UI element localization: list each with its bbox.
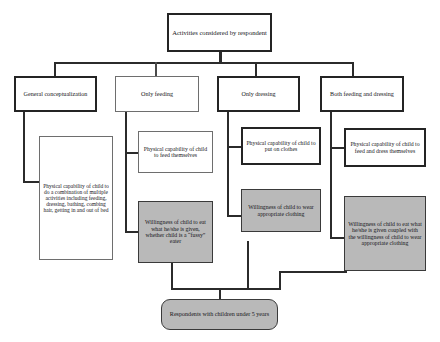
node-capability-general[interactable]: Physical capability of child to do a com… [39, 136, 113, 260]
node-both-feeding-dressing[interactable]: Both feeding and dressing [320, 76, 404, 112]
connector-dressing-to-capability [227, 146, 242, 148]
connector-general-spine [23, 110, 25, 182]
node-only-dressing[interactable]: Only dressing [217, 76, 300, 112]
node-capability-dressing[interactable]: Physical capability of child to put on c… [241, 127, 321, 165]
connector-drop-dressing [255, 62, 257, 77]
node-capability-both[interactable]: Physical capability of child to feed and… [344, 128, 426, 167]
node-respondents-with-children[interactable]: Respondents with children under 5 years [161, 299, 278, 330]
connector-drop-both [352, 62, 354, 77]
connector-willingness-dressing-down [247, 241, 249, 289]
node-capability-feeding[interactable]: Physical capability of child to feed the… [138, 131, 213, 173]
node-general-conceptualization[interactable]: General conceptualization [14, 76, 97, 112]
node-respondents-with-children-label: Respondents with children under 5 years [165, 311, 274, 318]
node-willingness-feeding[interactable]: Willingness of child to eat what he/she … [138, 201, 213, 263]
node-only-feeding-label: Only feeding [119, 91, 195, 98]
connector-dressing-spine [227, 110, 229, 216]
flowchart-diagram: Activities considered by respondent Gene… [0, 0, 440, 342]
node-willingness-both[interactable]: Willingness of child to eat what he/she … [344, 196, 426, 271]
connector-general-to-capability [23, 181, 40, 183]
connector-willingness-both-across [279, 271, 347, 273]
connector-both-spine [330, 110, 332, 238]
connector-both-to-capability [330, 147, 345, 149]
connector-feeding-spine [125, 110, 127, 232]
connector-dressing-to-willingness [227, 215, 242, 217]
node-general-conceptualization-label: General conceptualization [19, 91, 92, 98]
connector-feeding-to-capability [125, 152, 139, 154]
node-capability-both-label: Physical capability of child to feed and… [349, 141, 421, 154]
node-willingness-both-label: Willingness of child to eat what he/she … [348, 221, 422, 247]
connector-both-to-willingness [330, 237, 345, 239]
connector-drop-feeding [155, 62, 157, 77]
connector-willingness-feeding-down [171, 263, 173, 289]
connector-drop-general [54, 62, 56, 77]
node-both-feeding-dressing-label: Both feeding and dressing [325, 91, 399, 98]
node-capability-dressing-label: Physical capability of child to put on c… [246, 140, 316, 153]
connector-feeding-to-willingness [125, 231, 139, 233]
node-activities-considered-label: Activities considered by respondent [172, 29, 267, 36]
connector-category-bus [55, 62, 354, 64]
node-willingness-feeding-label: Willingness of child to eat what he/she … [142, 219, 209, 245]
node-only-dressing-label: Only dressing [222, 91, 295, 98]
node-willingness-dressing[interactable]: Willingness of child to wear appropriate… [241, 189, 321, 232]
node-only-feeding[interactable]: Only feeding [115, 76, 199, 112]
node-activities-considered[interactable]: Activities considered by respondent [167, 13, 272, 52]
connector-willingness-both-down [279, 271, 281, 289]
connector-outcome-bus [171, 288, 281, 290]
node-capability-feeding-label: Physical capability of child to feed the… [142, 146, 209, 159]
node-willingness-dressing-label: Willingness of child to wear appropriate… [245, 204, 317, 217]
node-capability-general-label: Physical capability of child to do a com… [43, 183, 109, 214]
